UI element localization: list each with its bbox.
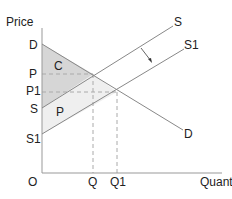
y-axis-label: Price — [6, 15, 34, 29]
y-tick-p1: P1 — [26, 84, 41, 98]
y-tick-s: S — [30, 102, 38, 116]
y-tick-d: D — [29, 38, 38, 52]
x-axis-label: Quantity — [200, 175, 232, 189]
curve-label-d: D — [184, 127, 193, 141]
region-label-p: P — [56, 105, 64, 119]
x-tick-q: Q — [88, 175, 97, 189]
shift-arrow-icon — [148, 58, 152, 63]
y-tick-p: P — [29, 67, 37, 81]
x-tick-q1: Q1 — [110, 175, 126, 189]
origin-label: O — [28, 175, 37, 189]
curve-label-s: S — [174, 15, 182, 29]
curve-label-s1: S1 — [184, 38, 199, 52]
supply-demand-diagram: Price Quantity O D P P1 S S1 Q Q1 S S1 D… — [0, 0, 232, 199]
region-label-c: C — [54, 59, 63, 73]
y-tick-s1: S1 — [26, 132, 41, 146]
